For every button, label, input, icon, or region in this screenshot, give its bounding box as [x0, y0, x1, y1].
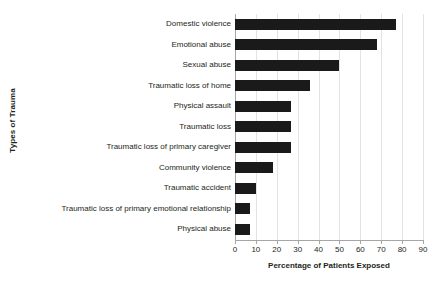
- x-axis-line: [235, 240, 423, 241]
- category-label: Traumatic loss: [179, 117, 231, 138]
- bar-row: [235, 199, 423, 220]
- gridline-90: [423, 14, 424, 240]
- bar: [235, 121, 291, 132]
- bar: [235, 142, 291, 153]
- x-tick-label-90: 90: [411, 245, 435, 254]
- bar-row: [235, 35, 423, 56]
- x-tick-20: [277, 240, 278, 244]
- category-label: Traumatic loss of home: [148, 76, 231, 97]
- bar: [235, 80, 310, 91]
- category-label: Traumatic loss of primary emotional rela…: [61, 199, 231, 220]
- x-tick-50: [339, 240, 340, 244]
- category-label: Physical abuse: [177, 219, 231, 240]
- bar: [235, 224, 250, 235]
- x-tick-40: [319, 240, 320, 244]
- bar-row: [235, 14, 423, 35]
- x-tick-80: [402, 240, 403, 244]
- bar: [235, 101, 291, 112]
- category-label: Emotional abuse: [171, 35, 231, 56]
- plot-area: [235, 14, 423, 240]
- y-axis-title: Types of Trauma: [4, 0, 20, 240]
- category-label: Sexual abuse: [183, 55, 231, 76]
- x-axis-title: Percentage of Patients Exposed: [235, 261, 423, 270]
- bar-row: [235, 96, 423, 117]
- x-tick-10: [256, 240, 257, 244]
- x-tick-30: [298, 240, 299, 244]
- bar: [235, 162, 273, 173]
- bar-row: [235, 137, 423, 158]
- y-axis-title-text: Types of Trauma: [8, 88, 17, 152]
- category-label: Traumatic loss of primary caregiver: [106, 137, 231, 158]
- bar-row: [235, 219, 423, 240]
- x-tick-90: [423, 240, 424, 244]
- bar-row: [235, 55, 423, 76]
- bar-row: [235, 117, 423, 138]
- bar-row: [235, 158, 423, 179]
- bar: [235, 203, 250, 214]
- category-label: Physical assault: [174, 96, 231, 117]
- bar: [235, 19, 396, 30]
- x-tick-70: [381, 240, 382, 244]
- bar: [235, 183, 256, 194]
- bar-row: [235, 76, 423, 97]
- category-label: Domestic violence: [166, 14, 231, 35]
- bar: [235, 60, 339, 71]
- x-tick-0: [235, 240, 236, 244]
- bar-row: [235, 178, 423, 199]
- x-tick-60: [360, 240, 361, 244]
- bar-chart: Types of Trauma Domestic violenceEmotion…: [0, 0, 446, 286]
- category-label: Traumatic accident: [164, 178, 231, 199]
- category-label: Community violence: [159, 158, 231, 179]
- bar: [235, 39, 377, 50]
